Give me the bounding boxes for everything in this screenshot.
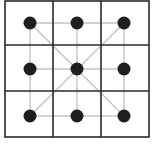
- dot-r2-c1: [71, 110, 84, 123]
- dot-r0-c0: [24, 17, 37, 30]
- dot-r0-c1: [71, 17, 84, 30]
- dot-r1-c2: [118, 63, 131, 76]
- dot-r0-c2: [118, 17, 131, 30]
- dot-r1-c0: [24, 63, 37, 76]
- dot-r2-c2: [118, 110, 131, 123]
- grid-board: [0, 0, 154, 148]
- dot-r2-c0: [24, 110, 37, 123]
- dot-r1-c1: [71, 63, 84, 76]
